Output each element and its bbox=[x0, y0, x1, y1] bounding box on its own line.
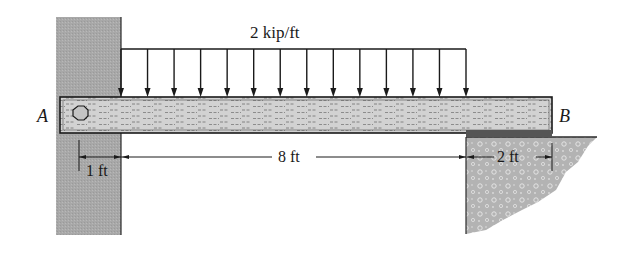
arrowhead-icon bbox=[459, 155, 466, 159]
pin-icon bbox=[73, 106, 88, 120]
arrow-down-icon bbox=[383, 88, 389, 97]
load-arrows bbox=[118, 49, 469, 97]
arrow-down-icon bbox=[198, 88, 204, 97]
concrete-support bbox=[466, 137, 597, 234]
point-label-a: A bbox=[36, 106, 49, 126]
arrow-down-icon bbox=[251, 88, 257, 97]
arrow-down-icon bbox=[224, 88, 230, 97]
arrow-down-icon bbox=[463, 88, 469, 97]
dim-label-1ft: 1 ft bbox=[86, 162, 108, 179]
arrow-down-icon bbox=[304, 88, 310, 97]
arrow-down-icon bbox=[145, 88, 151, 97]
arrow-down-icon bbox=[171, 88, 177, 97]
dim-label-2ft: 2 ft bbox=[497, 148, 519, 165]
arrow-down-icon bbox=[357, 88, 363, 97]
point-label-b: B bbox=[559, 106, 570, 126]
beam-diagram: 2 kip/ft A B 1 ft 8 ft 2 ft bbox=[0, 0, 626, 254]
arrow-down-icon bbox=[410, 88, 416, 97]
arrow-down-icon bbox=[436, 88, 442, 97]
arrow-down-icon bbox=[277, 88, 283, 97]
dim-label-8ft: 8 ft bbox=[278, 148, 300, 165]
arrow-down-icon bbox=[330, 88, 336, 97]
beam bbox=[60, 97, 552, 133]
load-label: 2 kip/ft bbox=[250, 23, 300, 42]
bearing-strip bbox=[466, 130, 552, 137]
arrowhead-icon bbox=[122, 155, 129, 159]
